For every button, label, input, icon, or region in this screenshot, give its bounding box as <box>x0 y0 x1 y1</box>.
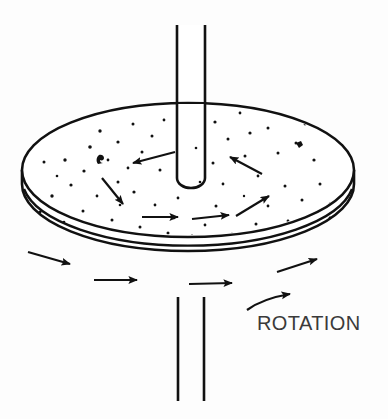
rotation-label: ROTATION <box>257 312 361 335</box>
rim-arrow-left-lower <box>28 252 70 264</box>
upper-shaft-foreground <box>177 104 205 188</box>
rotation-arrow-path <box>247 294 290 310</box>
upper-shaft-lower-segment <box>177 104 205 188</box>
rotation-curved-arrow <box>247 294 290 310</box>
lower-shaft <box>178 297 204 401</box>
figure-container: ROTATION <box>0 0 388 419</box>
rim-flow-arrows <box>28 252 317 284</box>
rim-arrow-center-horizontal <box>189 283 232 284</box>
rim-arrow-right-upward <box>277 259 317 272</box>
rotating-disk-diagram <box>0 0 388 419</box>
